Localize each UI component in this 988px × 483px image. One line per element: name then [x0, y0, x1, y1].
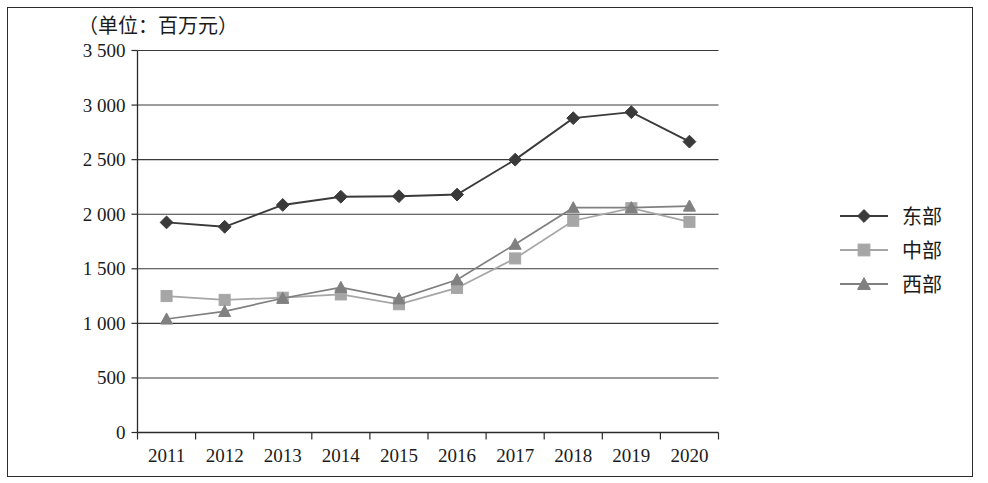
y-axis-tick-label: 0	[116, 422, 126, 443]
legend-item-东部[interactable]: 东部	[840, 206, 942, 228]
legend-item-西部[interactable]: 西部	[840, 274, 942, 296]
series-line	[167, 206, 690, 319]
x-axis-tick-label: 2014	[322, 445, 361, 466]
legend-label: 西部	[902, 274, 942, 296]
y-axis-ticks-group	[132, 51, 138, 433]
legend-item-中部[interactable]: 中部	[840, 240, 942, 262]
data-point	[451, 274, 463, 285]
y-axis-tick-label: 1 000	[83, 313, 126, 334]
data-point	[684, 216, 695, 227]
data-point	[510, 253, 521, 264]
data-point	[161, 291, 172, 302]
x-axis-ticks-group	[138, 433, 719, 440]
data-point	[218, 220, 231, 233]
x-axis-tick-label: 2016	[438, 445, 476, 466]
x-axis-tick-label: 2015	[380, 445, 418, 466]
data-point	[509, 153, 522, 166]
data-point	[219, 294, 230, 305]
x-axis-tick-label: 2019	[612, 445, 650, 466]
data-point	[451, 188, 464, 201]
y-axis-tick-label: 1 500	[83, 258, 126, 279]
data-series-group	[160, 106, 696, 324]
data-point	[276, 199, 289, 212]
data-point	[567, 112, 580, 125]
x-axis-tick-label: 2017	[496, 445, 534, 466]
data-point	[335, 281, 347, 292]
x-axis-tick-label: 2018	[554, 445, 592, 466]
y-axis-tick-label: 3 500	[83, 40, 126, 61]
x-axis-tick-label: 2011	[148, 445, 185, 466]
x-axis-tick-label: 2020	[670, 445, 708, 466]
data-point	[393, 190, 406, 203]
series-line	[167, 112, 690, 227]
data-point	[334, 190, 347, 203]
x-axis-tick-label: 2013	[264, 445, 302, 466]
data-point	[568, 215, 579, 226]
x-axis-tick-label: 2012	[206, 445, 244, 466]
x-axis-labels-group: 2011201220132014201520162017201820192020	[148, 445, 709, 466]
data-point	[683, 135, 696, 148]
legend-marker	[858, 244, 870, 256]
line-chart-plot: 05001 0001 5002 0002 5003 0003 500 20112…	[0, 0, 988, 483]
series-3	[161, 200, 696, 324]
data-point	[160, 216, 173, 229]
data-point	[625, 106, 638, 119]
chart-figure: （单位：百万元） 05001 0001 5002 0002 5003 0003 …	[0, 0, 988, 483]
y-axis-labels-group: 05001 0001 5002 0002 5003 0003 500	[83, 40, 126, 443]
y-axis-tick-label: 3 000	[83, 95, 126, 116]
data-point	[509, 238, 521, 249]
y-axis-tick-label: 2 500	[83, 149, 126, 170]
series-2	[161, 203, 695, 310]
legend-marker	[858, 210, 871, 223]
legend-label: 东部	[902, 206, 942, 228]
chart-legend: 东部中部西部	[840, 206, 942, 296]
y-axis-tick-label: 500	[97, 367, 126, 388]
y-axis-tick-label: 2 000	[83, 204, 126, 225]
legend-label: 中部	[902, 240, 942, 262]
